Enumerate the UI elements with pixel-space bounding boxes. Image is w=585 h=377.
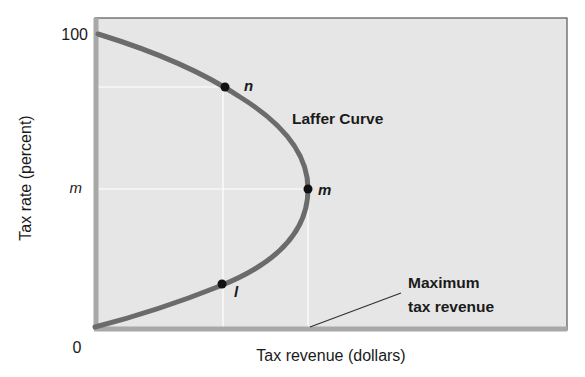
y-tick-m: m — [70, 179, 83, 196]
point-l — [218, 280, 227, 289]
plot-area — [95, 18, 567, 330]
x-axis-title: Tax revenue (dollars) — [256, 347, 405, 364]
laffer-curve-chart: n m l Laffer Curve Maximum tax revenue 1… — [0, 0, 585, 377]
y-axis-title: Tax rate (percent) — [17, 115, 34, 240]
point-m — [304, 185, 313, 194]
origin-label: 0 — [73, 339, 82, 356]
max-revenue-label-line1: Maximum — [408, 274, 480, 291]
max-revenue-label-line2: tax revenue — [408, 298, 495, 315]
curve-label: Laffer Curve — [292, 110, 384, 127]
y-tick-100: 100 — [61, 26, 88, 43]
point-n — [221, 83, 230, 92]
point-n-label: n — [244, 77, 253, 94]
point-m-label: m — [318, 181, 331, 198]
